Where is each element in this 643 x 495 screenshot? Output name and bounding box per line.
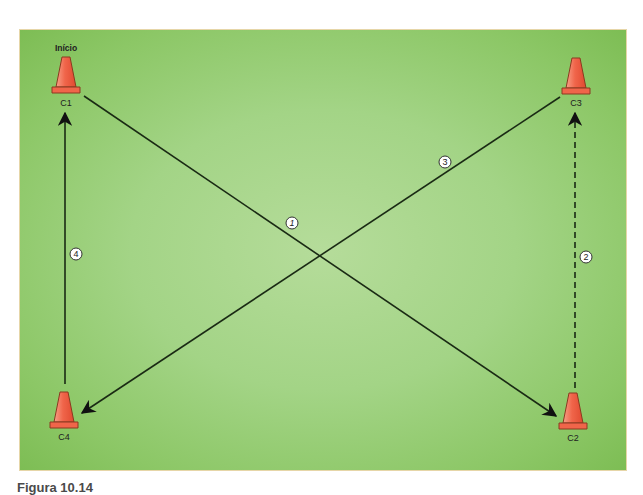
svg-text:3: 3 [442,157,447,167]
step-marker-1: 1 [286,217,298,229]
cone-c3: C3 [562,58,590,108]
step-marker-3: 3 [439,156,451,168]
svg-text:4: 4 [73,249,78,259]
path-3-c3-to-c4 [82,97,560,413]
svg-text:1: 1 [289,218,294,228]
figure-caption: Figura 10.14 [17,480,93,495]
step-marker-2: 2 [580,251,592,263]
cone-c1: Início C1 [52,43,80,108]
cone-c1-label: C1 [60,98,72,108]
cone-c2: C2 [559,393,587,443]
cone-c4-label: C4 [58,432,70,442]
svg-text:2: 2 [583,252,588,262]
step-marker-4: 4 [70,248,82,260]
cone-c2-label: C2 [567,433,579,443]
cone-c4: C4 [50,392,78,442]
start-label: Início [55,43,77,53]
cone-c3-label: C3 [570,98,582,108]
